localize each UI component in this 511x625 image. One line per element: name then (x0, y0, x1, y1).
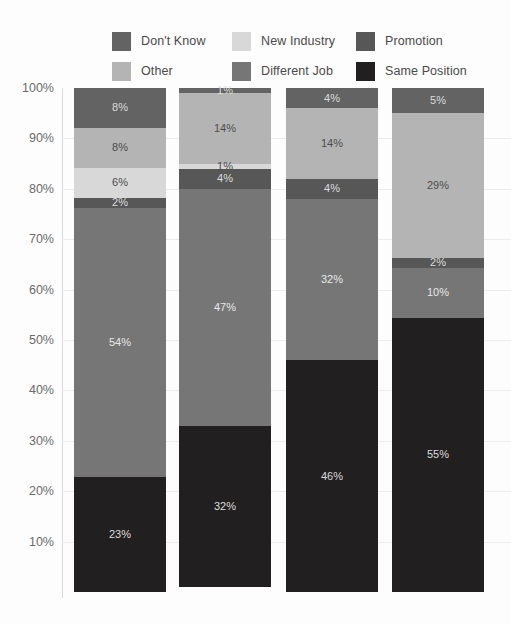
bar-segment-value: 1% (217, 161, 233, 172)
bar-segment-value: 14% (214, 123, 236, 134)
bar-segment[interactable]: 14% (179, 93, 271, 164)
legend-item-dont-know[interactable]: Don't Know (112, 26, 232, 56)
bar-segment[interactable]: 4% (179, 169, 271, 189)
legend-label-same-position: Same Position (385, 64, 467, 78)
bar-segment[interactable]: 8% (74, 88, 166, 128)
legend-label-different-job: Different Job (261, 64, 333, 78)
bar-segment-value: 2% (112, 197, 128, 208)
bar-segment[interactable]: 6% (74, 168, 166, 198)
bar-segment[interactable]: 32% (179, 426, 271, 587)
legend-label-other: Other (141, 64, 173, 78)
legend-item-promotion[interactable]: Promotion (356, 26, 496, 56)
bar-segment-value: 32% (214, 501, 236, 512)
bar-segment-value: 29% (427, 180, 449, 191)
legend-label-new-industry: New Industry (261, 34, 335, 48)
stacked-bar[interactable]: 8%8%6%2%54%23% (74, 88, 166, 592)
legend-swatch-dont-know (112, 32, 131, 51)
y-axis-tick-labels: 100%90%80%70%60%50%40%30%20%10% (0, 88, 62, 598)
legend-item-other[interactable]: Other (112, 56, 232, 86)
bar-segment-value: 55% (427, 449, 449, 460)
bar-segment-value: 46% (321, 471, 343, 482)
bar-segment-value: 4% (217, 173, 233, 184)
bar-segment-value: 4% (324, 93, 340, 104)
legend-swatch-new-industry (232, 32, 251, 51)
legend-item-same-position[interactable]: Same Position (356, 56, 496, 86)
legend-swatch-other (112, 62, 131, 81)
y-axis-tick-10: 10% (29, 535, 54, 549)
bar-segment-value: 14% (321, 138, 343, 149)
bar-segment[interactable]: 4% (286, 88, 378, 108)
bar-segment-value: 4% (324, 183, 340, 194)
bar-segment[interactable]: 2% (392, 258, 484, 268)
bar-segment[interactable]: 14% (286, 108, 378, 179)
legend-item-different-job[interactable]: Different Job (232, 56, 356, 86)
chart-legend: Don't Know New Industry Promotion Other … (112, 26, 502, 86)
bar-segment[interactable]: 32% (286, 199, 378, 360)
legend-swatch-same-position (356, 62, 375, 81)
legend-row-2: Other Different Job Same Position (112, 56, 502, 86)
bar-series-group: 8%8%6%2%54%23%1%14%1%4%47%32%4%14%4%32%4… (62, 88, 511, 598)
y-axis-tick-30: 30% (29, 434, 54, 448)
legend-label-dont-know: Don't Know (141, 34, 206, 48)
bar-segment[interactable]: 46% (286, 360, 378, 592)
legend-label-promotion: Promotion (385, 34, 443, 48)
y-axis-tick-20: 20% (29, 484, 54, 498)
chart-root: Don't Know New Industry Promotion Other … (0, 0, 511, 625)
bar-segment-value: 8% (112, 142, 128, 153)
bar-segment-value: 23% (109, 529, 131, 540)
bar-segment-value: 10% (427, 287, 449, 298)
bar-segment-value: 2% (430, 257, 446, 268)
bar-segment[interactable]: 29% (392, 113, 484, 258)
stacked-bar[interactable]: 1%14%1%4%47%32% (179, 88, 271, 592)
bar-segment[interactable]: 10% (392, 268, 484, 318)
bar-segment[interactable]: 47% (179, 189, 271, 426)
bar-segment-value: 32% (321, 274, 343, 285)
bar-segment-value: 47% (214, 302, 236, 313)
bar-segment[interactable]: 2% (74, 198, 166, 208)
y-axis-tick-50: 50% (29, 333, 54, 347)
bar-segment[interactable]: 54% (74, 208, 166, 477)
legend-row-1: Don't Know New Industry Promotion (112, 26, 502, 56)
legend-swatch-different-job (232, 62, 251, 81)
bar-segment[interactable]: 8% (74, 128, 166, 168)
stacked-bar[interactable]: 5%29%2%10%55% (392, 88, 484, 592)
stacked-bar[interactable]: 4%14%4%32%46% (286, 88, 378, 592)
plot-area: 100%90%80%70%60%50%40%30%20%10% 8%8%6%2%… (0, 88, 511, 598)
y-axis-tick-70: 70% (29, 232, 54, 246)
bar-segment-value: 54% (109, 337, 131, 348)
y-axis-tick-80: 80% (29, 182, 54, 196)
y-axis-tick-90: 90% (29, 131, 54, 145)
legend-swatch-promotion (356, 32, 375, 51)
bar-segment-value: 5% (430, 95, 446, 106)
bar-segment[interactable]: 23% (74, 477, 166, 592)
legend-item-new-industry[interactable]: New Industry (232, 26, 356, 56)
bar-segment-value: 1% (217, 85, 233, 96)
y-axis-tick-60: 60% (29, 283, 54, 297)
bar-segment[interactable]: 4% (286, 179, 378, 199)
y-axis-tick-100: 100% (22, 81, 54, 95)
bar-segment[interactable]: 5% (392, 88, 484, 113)
bar-segment-value: 8% (112, 102, 128, 113)
bar-segment-value: 6% (112, 177, 128, 188)
bar-segment[interactable]: 55% (392, 318, 484, 592)
y-axis-tick-40: 40% (29, 383, 54, 397)
